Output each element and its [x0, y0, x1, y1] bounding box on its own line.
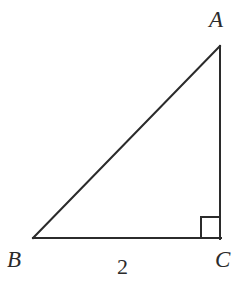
vertex-label-b: B	[7, 248, 21, 271]
triangle-drawing	[0, 0, 248, 288]
triangle-side-hypotenuse-ab	[33, 46, 220, 238]
vertex-label-c: C	[215, 248, 230, 271]
side-length-label-bc: 2	[117, 256, 128, 278]
right-angle-marker-icon	[201, 217, 220, 237]
geometry-figure: A B C 2	[0, 0, 248, 288]
vertex-label-a: A	[209, 8, 223, 31]
